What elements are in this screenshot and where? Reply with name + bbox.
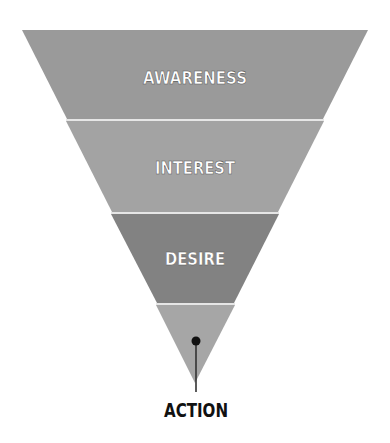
action-marker-dot — [192, 337, 201, 346]
stage-label-interest: INTEREST — [155, 157, 236, 178]
sales-funnel-diagram: AWARENESS INTEREST DESIRE ACTION — [0, 0, 390, 443]
action-label: ACTION — [164, 398, 228, 422]
stage-label-desire: DESIRE — [165, 248, 225, 269]
stage-label-awareness: AWARENESS — [143, 67, 247, 88]
